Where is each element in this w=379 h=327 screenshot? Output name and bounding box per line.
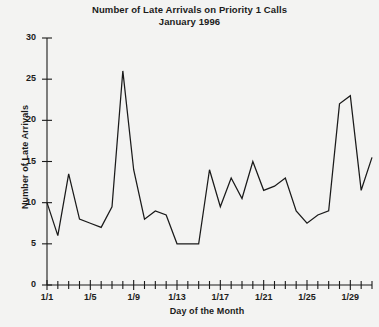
y-axis-tick-label: 15 [10, 156, 36, 166]
x-axis-tick-label: 1/21 [244, 292, 284, 302]
axis-lines [47, 38, 372, 285]
y-axis-tick-label: 10 [10, 197, 36, 207]
plot-area [0, 0, 379, 327]
x-axis-tick-label: 1/17 [200, 292, 240, 302]
x-axis-tick-label: 1/5 [70, 292, 110, 302]
chart-container: Number of Late Arrivals on Priority 1 Ca… [0, 0, 379, 327]
x-axis-tick-label: 1/1 [27, 292, 67, 302]
y-axis-tick-label: 20 [10, 114, 36, 124]
y-axis-tick-label: 30 [10, 32, 36, 42]
x-axis-tick-label: 1/9 [114, 292, 154, 302]
y-axis-tick-label: 25 [10, 73, 36, 83]
y-axis-tick-label: 5 [10, 238, 36, 248]
x-axis-tick-label: 1/29 [330, 292, 370, 302]
x-axis-tick-label: 1/25 [287, 292, 327, 302]
y-axis-tick-label: 0 [10, 279, 36, 289]
data-series-line [47, 71, 372, 244]
x-axis-tick-label: 1/13 [157, 292, 197, 302]
